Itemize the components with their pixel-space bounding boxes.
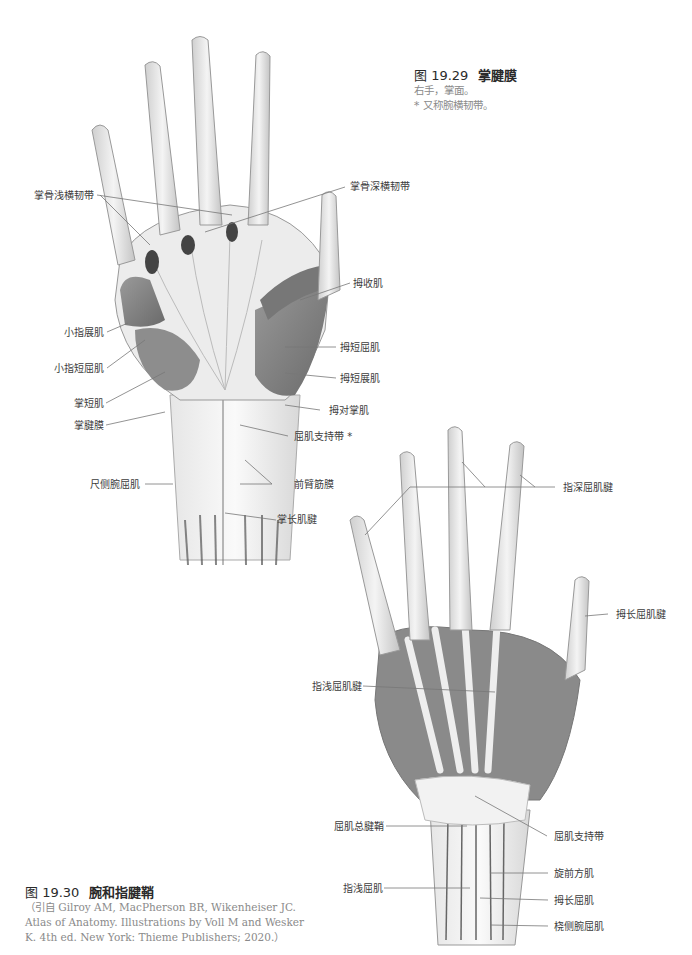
label-flexor-digiti-minimi-brevis: 小指短屈肌 [54,363,104,375]
figure-19-30-citation: （引自 Gilroy AM, MacPherson BR, Wikenheise… [25,900,305,945]
label-fpl-tendon: 拇长屈肌腱 [616,609,666,621]
label-common-flexor-sheath: 屈肌总腱鞘 [334,821,384,833]
figure-number: 图 19.29 [414,68,468,83]
label-antebrachial-fascia: 前臂筋膜 [294,479,334,491]
figure-number: 图 19.30 [25,885,79,900]
label-flexor-retinaculum: 屈肌支持带 [554,831,604,843]
caption-footnote: * 又称腕横韧带。 [414,98,493,113]
figure-title-text: 掌腱膜 [478,68,517,83]
label-palmar-aponeurosis: 掌腱膜 [74,420,104,432]
label-superficial-transverse-metacarpal-ligament: 掌骨浅横韧带 [34,190,94,202]
label-abductor-digiti-minimi: 小指展肌 [64,327,104,339]
label-flexor-pollicis-brevis: 拇短屈肌 [340,342,380,354]
label-deep-transverse-metacarpal-ligament: 掌骨深横韧带 [350,181,410,193]
label-abductor-pollicis-brevis: 拇短展肌 [340,373,380,385]
label-opponens-pollicis: 拇对掌肌 [329,405,369,417]
label-fds-tendons: 指浅屈肌腱 [312,681,362,693]
label-flexor-carpi-ulnaris: 尺侧腕屈肌 [90,479,140,491]
label-flexor-pollicis-longus: 拇长屈肌 [554,895,594,907]
figure-19-29-caption: 右手，掌面。 * 又称腕横韧带。 [414,83,493,113]
label-pronator-quadratus: 旋前方肌 [554,868,594,880]
label-fdp-tendons: 指深屈肌腱 [563,482,613,494]
label-fds-muscle: 指浅屈肌 [343,883,383,895]
caption-line: 右手，掌面。 [414,83,493,98]
label-palmaris-brevis: 掌短肌 [74,398,104,410]
label-flexor-carpi-radialis: 桡侧腕屈肌 [554,921,604,933]
figure-19-30-title: 图 19.30腕和指腱鞘 [25,882,154,901]
anatomy-illustrations [0,0,692,955]
figure-title-text: 腕和指腱鞘 [89,885,154,900]
label-palmaris-longus-tendon: 掌长肌腱 [277,514,317,526]
figure-19-29-title: 图 19.29掌腱膜 [414,65,517,84]
label-adductor-pollicis: 拇收肌 [353,278,383,290]
label-flexor-retinaculum-asterisk: 屈肌支持带 * [294,431,352,443]
